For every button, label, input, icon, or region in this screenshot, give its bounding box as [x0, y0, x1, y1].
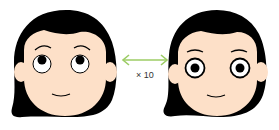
diagram-canvas: × 10 [0, 0, 279, 130]
face-looking-up [0, 0, 135, 130]
face-looking-straight [145, 0, 279, 130]
left-pupil [191, 64, 200, 73]
left-pupil [38, 56, 47, 65]
right-pupil [236, 64, 245, 73]
right-pupil [76, 56, 85, 65]
face-skin [24, 30, 106, 116]
